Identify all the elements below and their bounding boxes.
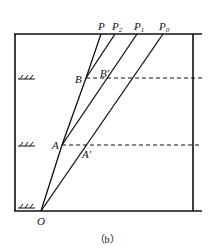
label-P1: P1 xyxy=(133,20,144,34)
label-B-prime: B′ xyxy=(100,67,110,79)
label-A-prime: A′ xyxy=(81,148,92,160)
figure-caption: （b） xyxy=(95,234,120,245)
ground-hatch-icon-O xyxy=(18,204,35,208)
line-O-P0 xyxy=(41,34,163,211)
label-P2: P2 xyxy=(111,20,123,34)
ground-hatch-icon-A xyxy=(18,142,35,146)
diagram-canvas: P P2 P1 P0 B B′ A A′ O （b） xyxy=(0,0,209,249)
label-P: P xyxy=(97,20,105,32)
label-P0: P0 xyxy=(158,20,170,34)
line-A-P1 xyxy=(62,34,137,145)
ground-hatch-icons xyxy=(18,75,35,208)
label-O: O xyxy=(37,215,45,227)
ground-hatch-icon-B xyxy=(18,75,35,79)
line-O-A-B-P xyxy=(41,34,101,211)
label-B: B xyxy=(75,73,82,85)
label-A: A xyxy=(51,139,59,151)
